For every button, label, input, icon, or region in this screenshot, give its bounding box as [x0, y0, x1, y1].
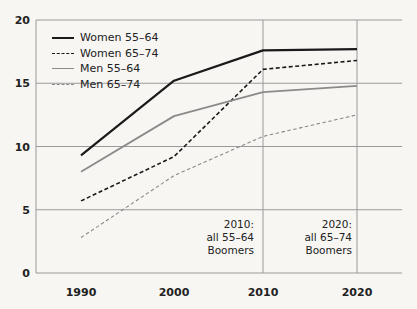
annotation-line: Boomers: [206, 244, 254, 257]
line-chart: 051015201990200020102020 Women 55–64 Wom…: [0, 0, 417, 309]
x-tick-label: 1990: [66, 286, 97, 299]
legend-label: Men 65–74: [80, 77, 140, 93]
annotation-2010: 2010: all 55–64 Boomers: [206, 218, 254, 257]
annotation-line: 2020:: [304, 218, 352, 231]
annotation-line: all 65–74: [304, 231, 352, 244]
dashed-line-swatch-icon: [52, 84, 74, 85]
solid-line-swatch-icon: [52, 37, 74, 39]
legend: Women 55–64 Women 65–74 Men 55–64 Men 65…: [52, 30, 158, 92]
annotation-line: 2010:: [206, 218, 254, 231]
dashed-line-swatch-icon: [52, 53, 74, 54]
y-tick-label: 15: [15, 77, 30, 90]
y-tick-label: 5: [22, 204, 30, 217]
legend-label: Men 55–64: [80, 61, 140, 77]
legend-item-women-65-74: Women 65–74: [52, 46, 158, 62]
y-tick-label: 10: [15, 141, 31, 154]
solid-line-swatch-icon: [52, 68, 74, 69]
y-tick-label: 0: [22, 267, 30, 280]
x-tick-label: 2000: [159, 286, 190, 299]
series-line: [81, 86, 357, 172]
legend-item-women-55-64: Women 55–64: [52, 30, 158, 46]
x-tick-label: 2020: [342, 286, 373, 299]
legend-item-men-65-74: Men 65–74: [52, 77, 158, 93]
annotation-line: all 55–64: [206, 231, 254, 244]
annotation-line: Boomers: [304, 244, 352, 257]
annotation-2020: 2020: all 65–74 Boomers: [304, 218, 352, 257]
y-tick-label: 20: [15, 14, 31, 27]
x-tick-label: 2010: [248, 286, 279, 299]
legend-item-men-55-64: Men 55–64: [52, 61, 158, 77]
legend-label: Women 55–64: [80, 30, 158, 46]
legend-label: Women 65–74: [80, 46, 158, 62]
